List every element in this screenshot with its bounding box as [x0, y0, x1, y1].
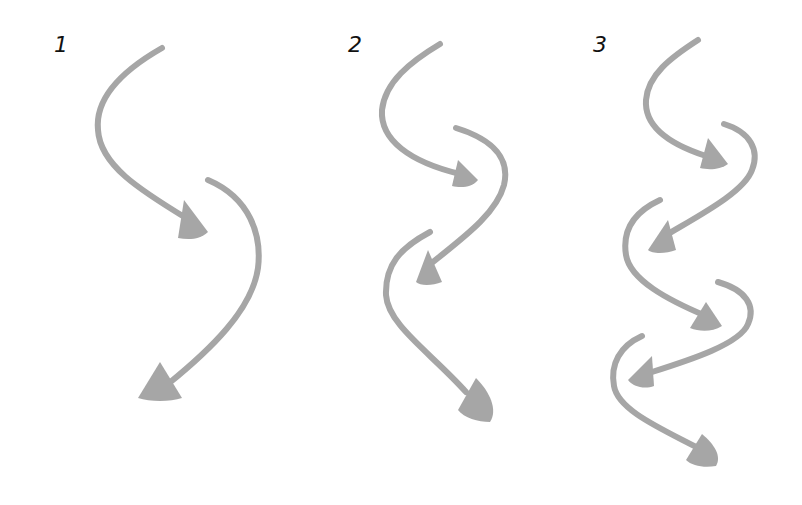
panel-1-arrows	[98, 48, 259, 401]
curved-arrow-icon	[98, 48, 208, 239]
curved-arrow-icon	[625, 200, 722, 331]
panel-2-arrows	[382, 44, 505, 422]
curved-arrow-icon	[416, 128, 505, 285]
wavy-arrows-diagram	[0, 0, 802, 505]
curved-arrow-icon	[138, 180, 259, 401]
panel-3-arrows	[613, 40, 755, 467]
curved-arrow-icon	[628, 282, 751, 388]
curved-arrow-icon	[646, 40, 728, 169]
curved-arrow-icon	[648, 124, 755, 253]
curved-arrow-icon	[382, 44, 478, 187]
